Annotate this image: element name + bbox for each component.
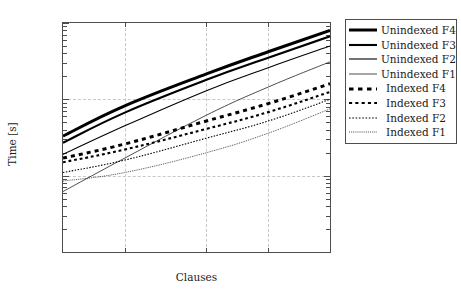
legend-line-sample-icon	[349, 39, 377, 51]
legend-line-sample-icon	[349, 83, 377, 95]
y-axis-tick	[63, 252, 69, 253]
legend-item-label: Indexed F1	[381, 127, 446, 138]
legend-item-label: Unindexed F4	[381, 25, 456, 36]
legend-item-label: Indexed F3	[381, 98, 446, 109]
legend-item-indexed-f1[interactable]: Indexed F1	[349, 125, 452, 140]
legend-item-unindexed-f1[interactable]: Unindexed F1	[349, 67, 452, 82]
legend-item-label: Unindexed F2	[381, 54, 456, 65]
series-line-unindexed-f1	[63, 62, 330, 192]
y-axis-title: Time [s]	[6, 109, 18, 179]
legend-line-sample-icon	[349, 53, 377, 65]
legend-item-label: Unindexed F1	[381, 69, 456, 80]
legend-line-sample-icon	[349, 112, 377, 124]
legend-item-label: Unindexed F3	[381, 40, 456, 51]
legend-item-indexed-f3[interactable]: Indexed F3	[349, 96, 452, 111]
chart-legend: Unindexed F4Unindexed F3Unindexed F2Unin…	[345, 19, 457, 144]
legend-line-sample-icon	[349, 126, 377, 138]
series-line-indexed-f1	[63, 109, 330, 181]
series-line-unindexed-f3	[63, 36, 330, 142]
legend-item-indexed-f4[interactable]: Indexed F4	[349, 81, 452, 96]
legend-item-label: Indexed F4	[381, 83, 446, 94]
series-line-indexed-f3	[63, 92, 330, 162]
x-axis-title: Clauses	[62, 271, 331, 283]
legend-item-unindexed-f4[interactable]: Unindexed F4	[349, 23, 452, 38]
plot-area: 1101001,0001,0002,0005,00010,00020,000	[62, 22, 331, 253]
series-container	[63, 23, 330, 252]
legend-line-sample-icon	[349, 97, 377, 109]
chart-figure: Time [s] 1101001,0001,0002,0005,00010,00…	[0, 0, 461, 298]
legend-item-unindexed-f2[interactable]: Unindexed F2	[349, 52, 452, 67]
legend-item-indexed-f2[interactable]: Indexed F2	[349, 111, 452, 126]
legend-line-sample-icon	[349, 68, 377, 80]
y-axis-tick-right	[324, 252, 330, 253]
legend-line-sample-icon	[349, 24, 377, 36]
series-line-unindexed-f2	[63, 46, 330, 154]
legend-item-label: Indexed F2	[381, 113, 446, 124]
legend-item-unindexed-f3[interactable]: Unindexed F3	[349, 38, 452, 53]
